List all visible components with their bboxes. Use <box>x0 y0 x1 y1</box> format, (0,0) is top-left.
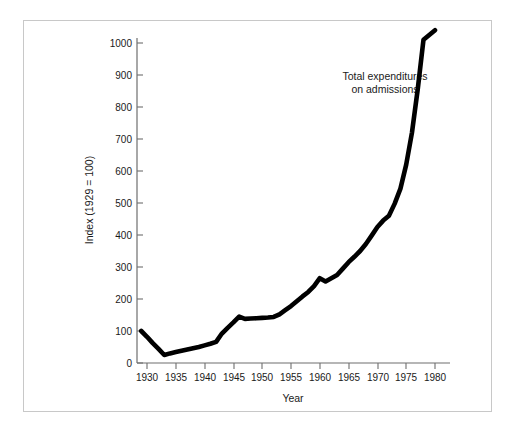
x-axis-tick-labels: 1930 1935 1940 1945 1950 1955 1960 1965 … <box>136 372 447 383</box>
chart-figure: 0 100 200 300 400 500 600 700 800 900 10… <box>0 0 518 439</box>
x-tick-label: 1935 <box>165 372 188 383</box>
y-tick-label: 0 <box>126 358 132 369</box>
x-tick-label: 1945 <box>223 372 246 383</box>
y-axis-title: Index (1929 = 100) <box>83 156 95 244</box>
x-tick-label: 1975 <box>395 372 418 383</box>
x-tick-label: 1940 <box>194 372 217 383</box>
y-tick-label: 300 <box>115 262 132 273</box>
y-tick-label: 600 <box>115 166 132 177</box>
x-tick-label: 1965 <box>338 372 361 383</box>
x-tick-label: 1930 <box>136 372 159 383</box>
x-axis-ticks <box>147 363 435 369</box>
line-chart: 0 100 200 300 400 500 600 700 800 900 10… <box>0 0 518 439</box>
y-axis-tick-labels: 0 100 200 300 400 500 600 700 800 900 10… <box>110 38 133 369</box>
x-axis-title: Year <box>282 392 304 404</box>
x-tick-label: 1980 <box>424 372 447 383</box>
y-tick-label: 900 <box>115 70 132 81</box>
series-annotation: Total expenditures on admissions <box>342 70 427 95</box>
y-tick-label: 800 <box>115 102 132 113</box>
y-tick-label: 700 <box>115 134 132 145</box>
y-tick-label: 400 <box>115 230 132 241</box>
y-tick-label: 200 <box>115 294 132 305</box>
x-tick-label: 1950 <box>251 372 274 383</box>
y-axis-ticks <box>137 43 143 363</box>
x-tick-label: 1955 <box>280 372 303 383</box>
y-tick-label: 100 <box>115 326 132 337</box>
x-tick-label: 1960 <box>309 372 332 383</box>
annotation-line-2: on admissions <box>351 83 418 95</box>
annotation-line-1: Total expenditures <box>342 70 427 82</box>
y-tick-label: 500 <box>115 198 132 209</box>
x-tick-label: 1970 <box>367 372 390 383</box>
y-tick-label: 1000 <box>110 38 133 49</box>
